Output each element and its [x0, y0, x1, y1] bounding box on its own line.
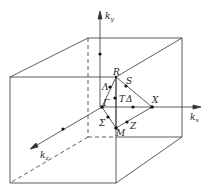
label-X: X: [151, 95, 159, 105]
label-S: S: [126, 76, 132, 86]
label-Lambda: Λ: [101, 82, 109, 92]
label-R: R: [112, 67, 120, 77]
kz-label: kz: [40, 150, 49, 161]
label-Z: Z: [129, 121, 137, 131]
brillouin-zone-diagram: ky kx kz R S Λ T Δ Γ X Σ Z M: [0, 0, 208, 195]
label-Delta: Δ: [125, 94, 133, 104]
label-Sigma: Σ: [98, 118, 106, 128]
label-T: T: [119, 94, 126, 104]
label-Gamma: Γ: [102, 98, 110, 108]
label-M: M: [115, 128, 126, 138]
kx-label: kx: [190, 112, 199, 123]
ky-label: ky: [105, 11, 114, 23]
